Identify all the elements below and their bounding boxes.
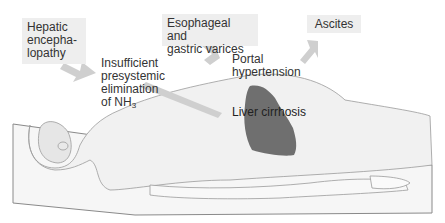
nh3-subscript: 3 xyxy=(132,101,136,110)
box-line: Esophageal and xyxy=(167,17,253,43)
liver-cirrhosis-label: Liver cirrhosis xyxy=(232,106,306,119)
nh3-text: of NH xyxy=(101,95,132,109)
label-line: hypertension xyxy=(232,66,301,79)
label-line: Liver cirrhosis xyxy=(232,105,306,119)
insufficient-elimination-label: Insufficient presystemic elimination of … xyxy=(101,57,165,112)
box-line: lopathy xyxy=(27,47,81,60)
portal-hypertension-label: Portal hypertension xyxy=(232,53,301,79)
box-line: Ascites xyxy=(315,17,354,31)
hepatic-encephalopathy-box: Hepatic encepha- lopathy xyxy=(22,18,86,64)
varices-box: Esophageal and gastric varices xyxy=(162,14,258,46)
label-line: of NH3 xyxy=(101,96,165,112)
ascites-box: Ascites xyxy=(307,15,361,33)
